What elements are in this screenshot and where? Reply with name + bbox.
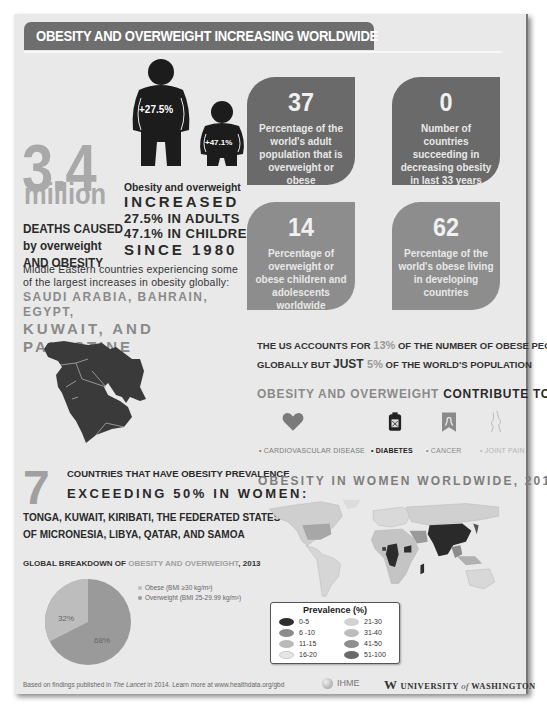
knee-joint-icon xyxy=(488,410,504,433)
uw-text: WASHINGTON xyxy=(469,681,536,691)
increase-line-5: SINCE 1980 xyxy=(124,241,264,259)
source-text: Based on findings published in xyxy=(23,681,113,688)
label-cardiovascular: • CARDIOVASCULAR DISEASE xyxy=(259,447,365,454)
legend-range: 41-50 xyxy=(364,640,382,647)
stat-box-countries-decreasing: 0 Number of countries succeeding in decr… xyxy=(392,77,500,185)
women-countries-number: 7 xyxy=(23,460,50,515)
obese-figures-illustration: +27.5% +47.1% xyxy=(119,58,249,168)
deaths-unit: million xyxy=(24,177,106,211)
deaths-line-2: by overweight xyxy=(23,238,102,253)
us-fact-pct-13: 13% xyxy=(373,339,395,351)
swatch-icon xyxy=(279,651,294,659)
ihme-text: IHME xyxy=(337,678,360,688)
infographic-card: OBESITY AND OVERWEIGHT INCREASING WORLDW… xyxy=(14,14,528,694)
source-text: in 2014. Learn more at www.healthdata.or… xyxy=(146,681,285,688)
adult-increase-badge: +27.5% xyxy=(139,104,173,115)
stat-description: Percentage of overweight or obese childr… xyxy=(247,243,355,312)
increase-line-4: 47.1% IN CHILDREN xyxy=(124,226,264,241)
us-fact-pct-5: 5% xyxy=(367,358,383,370)
legend-item-41-50: 41-50 xyxy=(344,640,382,648)
swatch-icon xyxy=(279,618,294,626)
stat-box-developing-countries: 62 Percentage of the world's obese livin… xyxy=(392,202,500,310)
legend-item-51-100: 51-100 xyxy=(344,651,386,659)
legend-text: Obese (BMI ≥30 kg/m²) xyxy=(145,584,213,591)
legend-range: 21-30 xyxy=(364,618,382,625)
stat-number: 62 xyxy=(397,212,494,243)
swatch-icon xyxy=(344,640,359,648)
map-legend: Prevalence (%) 0-5 6 -10 11-15 16-20 21-… xyxy=(270,602,400,664)
overweight-swatch-icon xyxy=(138,596,142,600)
breakdown-title-part: GLOBAL BREAKDOWN OF xyxy=(23,559,128,568)
us-fact-text: OF THE WORLD'S POPULATION xyxy=(383,359,532,370)
stat-description: Percentage of the world's obese living i… xyxy=(392,243,500,299)
obese-swatch-icon xyxy=(138,586,142,590)
us-fact-text: GLOBALLY BUT xyxy=(257,359,333,370)
legend-range: 51-100 xyxy=(364,651,386,658)
legend-item-11-15: 11-15 xyxy=(279,640,316,648)
contribute-title-gray: OBESITY AND OVERWEIGHT xyxy=(257,386,443,401)
stat-description: Number of countries succeeding in decrea… xyxy=(392,118,500,187)
label-joint-pain: • JOINT PAIN xyxy=(480,447,525,454)
increase-line-2: INCREASED xyxy=(124,193,264,211)
source-note: Based on findings published in The Lance… xyxy=(23,681,284,688)
women-line-1: COUNTRIES THAT HAVE OBESITY PREVALENCE xyxy=(67,468,290,479)
increase-caption: Obesity and overweight INCREASED 27.5% I… xyxy=(124,181,264,259)
us-fact-text: THE US ACCOUNTS FOR xyxy=(257,340,373,351)
stat-number: 0 xyxy=(397,87,494,118)
map-title: OBESITY IN WOMEN WORLDWIDE, 2013 xyxy=(258,474,547,488)
stat-description: Percentage of the world's adult populati… xyxy=(247,118,355,187)
us-fact-just: JUST xyxy=(333,357,367,371)
stat-number: 37 xyxy=(252,87,349,118)
pie-label-obese: 32% xyxy=(58,614,74,623)
breakdown-title: GLOBAL BREAKDOWN OF OBESITY AND OVERWEIG… xyxy=(23,559,261,568)
legend-range: 6 -10 xyxy=(299,629,315,636)
women-line-3: TONGA, KUWAIT, KIRIBATI, THE FEDERATED S… xyxy=(23,512,280,523)
legend-range: 11-15 xyxy=(299,640,316,647)
heart-icon xyxy=(282,412,304,432)
legend-item-16-20: 16-20 xyxy=(279,651,317,659)
legend-item-0-5: 0-5 xyxy=(279,618,309,626)
us-fact-text: OF THE NUMBER OF OBESE PEOPLE xyxy=(395,340,547,351)
legend-text: Overweight (BMI 25-29.99 kg/m²) xyxy=(145,594,241,601)
middle-east-intro: Middle Eastern countries experiencing so… xyxy=(23,263,248,289)
label-diabetes: • DIABETES xyxy=(371,447,413,454)
source-journal: The Lancet xyxy=(113,681,146,688)
header-divider xyxy=(24,51,502,53)
legend-item-21-30: 21-30 xyxy=(344,618,382,626)
swatch-icon xyxy=(279,640,294,648)
header-bar: OBESITY AND OVERWEIGHT INCREASING WORLDW… xyxy=(24,22,374,50)
stat-number: 14 xyxy=(252,212,349,243)
legend-item-6-10: 6 -10 xyxy=(279,629,315,637)
legend-range: 31-40 xyxy=(364,629,382,636)
swatch-icon xyxy=(344,651,359,659)
pie-legend-obese: Obese (BMI ≥30 kg/m²) xyxy=(138,583,241,593)
legend-item-31-40: 31-40 xyxy=(344,629,382,637)
increase-line-1: Obesity and overweight xyxy=(124,181,250,193)
glucose-meter-icon xyxy=(388,411,402,433)
legend-range: 0-5 xyxy=(299,618,309,625)
deaths-line-1: DEATHS CAUSED xyxy=(23,221,123,236)
uw-text: of xyxy=(461,681,469,691)
uw-text: UNIVERSITY xyxy=(401,681,462,691)
pie-label-overweight: 68% xyxy=(94,636,110,645)
stat-box-adult-overweight: 37 Percentage of the world's adult popul… xyxy=(247,77,355,185)
increase-line-3: 27.5% IN ADULTS xyxy=(124,211,264,226)
us-fact: THE US ACCOUNTS FOR 13% OF THE NUMBER OF… xyxy=(257,336,532,374)
women-countries-list: TONGA, KUWAIT, KIRIBATI, THE FEDERATED S… xyxy=(23,509,253,543)
pie-legend: Obese (BMI ≥30 kg/m²) Overweight (BMI 25… xyxy=(138,583,241,603)
middle-east-map-icon xyxy=(36,337,166,447)
child-increase-badge: +47.1% xyxy=(205,138,232,147)
swatch-icon xyxy=(344,618,359,626)
middle-east-countries-1: SAUDI ARABIA, BAHRAIN, EGYPT, xyxy=(23,290,248,320)
legend-title: Prevalence (%) xyxy=(271,605,399,615)
pie-legend-overweight: Overweight (BMI 25-29.99 kg/m²) xyxy=(138,593,241,603)
legend-range: 16-20 xyxy=(299,651,317,658)
uw-w-icon: W xyxy=(384,677,398,692)
breakdown-title-part: OBESITY AND OVERWEIGHT xyxy=(128,559,238,568)
ihme-logo: IHME xyxy=(322,678,360,689)
page-title: OBESITY AND OVERWEIGHT INCREASING WORLDW… xyxy=(36,28,378,44)
women-line-4: OF MICRONESIA, LIBYA, QATAR, AND SAMOA xyxy=(23,529,245,540)
label-cancer: • CANCER xyxy=(426,447,462,454)
stat-box-children-overweight: 14 Percentage of overweight or obese chi… xyxy=(247,202,355,310)
ihme-globe-icon xyxy=(322,678,333,689)
